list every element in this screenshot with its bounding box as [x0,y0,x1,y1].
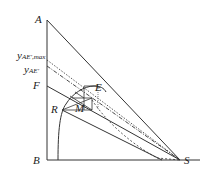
diagram-canvas: A B S F E R M yAE',max yAE' [0,0,208,179]
label-r: R [51,104,58,115]
label-e: E [95,82,102,93]
hypotenuse-as [47,20,180,160]
label-f: F [33,80,40,91]
diag-2 [75,92,84,98]
label-s: S [184,155,190,166]
label-a: A [35,14,42,25]
label-b: B [33,155,40,166]
label-m: M [75,103,84,114]
label-yae: yAE' [24,60,39,76]
diagram-svg [0,0,208,179]
line-fs [47,86,180,160]
line-rs [62,110,162,160]
